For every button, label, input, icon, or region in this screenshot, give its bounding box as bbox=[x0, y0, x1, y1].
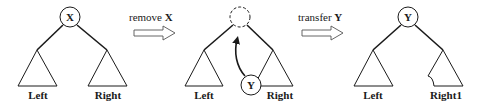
right1-subtree-label: Right1 bbox=[430, 89, 462, 101]
left-subtree-triangle bbox=[354, 50, 393, 86]
tree-deletion-diagram: X Left Right remove X Y Left Right trans… bbox=[0, 0, 481, 109]
right-subtree-label: Right bbox=[267, 89, 294, 101]
transition-remove: remove X bbox=[129, 11, 175, 40]
panel-during: Y Left Right bbox=[185, 7, 293, 101]
transition-transfer-caption: transfer Y bbox=[298, 11, 342, 23]
hollow-arrow-right-icon bbox=[302, 26, 343, 40]
edge-root-right bbox=[415, 25, 443, 50]
edge-root-left bbox=[204, 25, 233, 50]
transition-remove-caption: remove X bbox=[129, 11, 173, 23]
edge-root-left bbox=[373, 25, 401, 50]
left-subtree-triangle bbox=[18, 50, 57, 86]
edge-root-left bbox=[37, 25, 63, 50]
panel-before: X Left Right bbox=[18, 7, 127, 101]
right-subtree-triangle bbox=[88, 50, 127, 86]
curved-move-arrow-icon bbox=[236, 40, 245, 76]
root-node-label: Y bbox=[404, 11, 412, 23]
edge-root-right bbox=[247, 25, 273, 50]
moving-node-label: Y bbox=[247, 79, 255, 91]
left-subtree-triangle bbox=[185, 50, 223, 86]
transition-transfer: transfer Y bbox=[298, 11, 343, 40]
root-node-label: X bbox=[66, 11, 74, 23]
right1-subtree-notched-triangle bbox=[428, 50, 463, 86]
edge-root-right bbox=[77, 25, 107, 50]
left-subtree-label: Left bbox=[194, 89, 214, 101]
panel-after: Y Left Right1 bbox=[354, 7, 463, 101]
left-subtree-label: Left bbox=[28, 89, 48, 101]
empty-root-dashed-node bbox=[230, 7, 250, 27]
left-subtree-label: Left bbox=[363, 89, 383, 101]
hollow-arrow-right-icon bbox=[134, 26, 175, 40]
right-subtree-label: Right bbox=[95, 89, 122, 101]
